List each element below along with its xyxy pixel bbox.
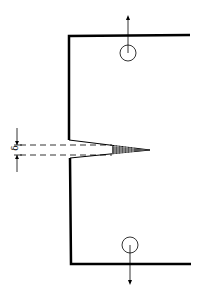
compact-tension-diagram bbox=[0, 0, 205, 292]
specimen-outline-top bbox=[69, 35, 190, 140]
dimension-arrow-up-icon bbox=[15, 155, 19, 159]
delta-label: δ bbox=[10, 145, 20, 150]
specimen-outline-bottom bbox=[70, 158, 191, 264]
arrow-up-icon bbox=[126, 15, 130, 20]
arrow-down-icon bbox=[128, 280, 132, 285]
